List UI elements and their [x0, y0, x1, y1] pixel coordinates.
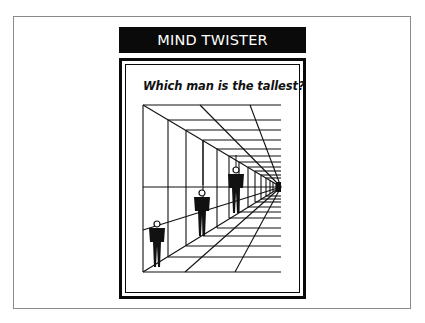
vanishing-point: [276, 182, 281, 192]
figures: [149, 167, 244, 267]
back-figure: [228, 167, 244, 213]
corridor-illusion-illustration: [0, 0, 425, 323]
corridor-lines: [143, 105, 281, 272]
